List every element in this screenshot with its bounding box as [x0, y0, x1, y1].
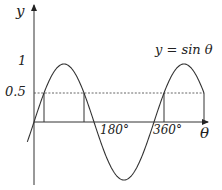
sine-graph [0, 0, 222, 190]
x-tick-180: 180° [100, 123, 129, 137]
equation-label: y = sin θ [155, 42, 213, 57]
x-tick-360: 360° [153, 123, 182, 137]
y-tick-0-5: 0.5 [5, 84, 26, 99]
axes [34, 5, 208, 185]
y-axis-label: y [16, 2, 24, 20]
y-tick-1: 1 [18, 53, 26, 68]
intersection-verticals [44, 93, 204, 122]
x-axis-label: θ [200, 124, 209, 142]
